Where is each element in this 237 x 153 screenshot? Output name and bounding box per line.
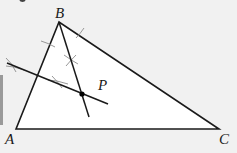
triangle-construction-diagram: B A C P [0,0,237,153]
vertex-label-C: C [219,131,230,147]
point-label-P: P [97,77,107,93]
triangle-ABC [16,22,219,129]
vertex-label-B: B [55,5,64,21]
point-P-dot [79,91,84,96]
vertex-label-A: A [4,131,15,147]
